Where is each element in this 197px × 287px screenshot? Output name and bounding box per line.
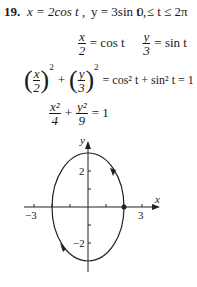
ellipse-graph: −3 3 2 −2 x y bbox=[0, 0, 197, 287]
y-tick-label: −2 bbox=[73, 237, 85, 249]
y-axis-arrow-icon bbox=[85, 141, 91, 149]
x-tick-label: −3 bbox=[25, 209, 37, 221]
direction-arrow-icon bbox=[60, 243, 66, 252]
y-axis-label: y bbox=[79, 134, 85, 146]
start-point-dot bbox=[122, 205, 127, 210]
x-axis-label: x bbox=[154, 193, 160, 205]
y-tick-label: 2 bbox=[79, 165, 85, 177]
x-tick-label: 3 bbox=[138, 209, 144, 221]
